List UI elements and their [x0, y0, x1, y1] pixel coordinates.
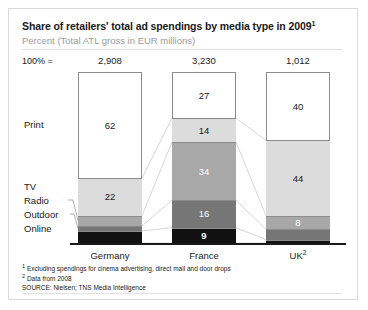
footer-divider	[22, 293, 342, 294]
source-line: SOURCE: Nielsen; TNS Media Intelligence	[22, 283, 342, 293]
footnote-1-marker: 1	[22, 263, 25, 269]
slide-canvas: Share of retailers' total ad spendings b…	[0, 0, 368, 310]
footnote-1: 1 Excluding spendings for cinema adverti…	[22, 264, 342, 274]
footnote-2-text: Data from 2008	[27, 275, 72, 282]
footnotes-block: 1 Excluding spendings for cinema adverti…	[22, 264, 342, 293]
footnote-2: 2 Data from 2008	[22, 274, 342, 284]
footnote-2-marker: 2	[22, 272, 25, 278]
footnote-1-text: Excluding spendings for cinema advertisi…	[27, 265, 231, 272]
